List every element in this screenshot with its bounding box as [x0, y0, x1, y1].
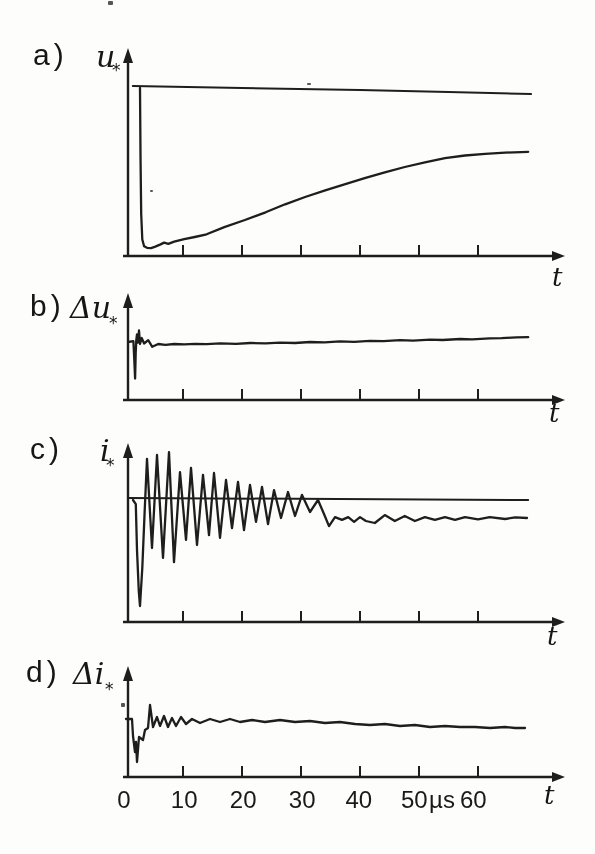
x-tick-label: 60 — [460, 788, 487, 812]
panel-a-plot — [123, 48, 565, 261]
scan-speck — [150, 190, 153, 192]
panel-c-t-label: t — [547, 623, 557, 649]
panel-a-ylabel-sub: * — [112, 62, 121, 79]
panel-b-plot — [123, 293, 565, 405]
scanned-oscillogram-figure: a) u * t b) Δu * t c) i * t d) Δi * t 01… — [0, 0, 595, 854]
x-tick-label: 30 — [289, 788, 316, 812]
panel-b-ylabel-sub: * — [109, 315, 118, 332]
x-tick-label: 50 — [401, 788, 428, 812]
panel-d-ylabel-sub: * — [105, 681, 114, 698]
panel-b-ylabel: Δu — [70, 293, 111, 323]
x-tick-label: 0 — [117, 788, 130, 812]
panel-d-tag: d) — [26, 657, 61, 687]
x-tick-label: 10 — [171, 788, 198, 812]
x-tick-label: 40 — [345, 788, 372, 812]
panel-a-t-label: t — [552, 264, 562, 290]
scan-speck — [108, 1, 113, 5]
panel-b-t-label: t — [549, 400, 559, 426]
panel-b-tag: b) — [30, 291, 65, 321]
scan-speck — [121, 703, 125, 707]
panel-c-ylabel-sub: * — [106, 457, 115, 474]
panel-a-tag: a) — [33, 40, 68, 70]
oscillogram-canvas — [0, 0, 595, 854]
x-axis-tick-labels: 01020304050µs60 — [0, 788, 595, 818]
panel-c-plot — [123, 443, 565, 627]
x-tick-label: µs — [429, 788, 455, 812]
scan-speck — [307, 83, 311, 85]
x-tick-label: 20 — [230, 788, 257, 812]
panel-d-plot — [123, 666, 565, 782]
panel-d-ylabel: Δi — [73, 659, 104, 689]
panel-c-tag: c) — [30, 434, 63, 464]
